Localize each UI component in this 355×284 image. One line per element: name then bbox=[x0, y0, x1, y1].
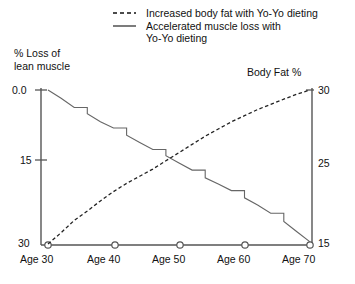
x-marker-age-50 bbox=[177, 242, 183, 248]
axis-lines bbox=[41, 88, 312, 245]
x-marker-age-60 bbox=[242, 242, 248, 248]
series-line-muscle-loss bbox=[48, 90, 310, 242]
plot-area bbox=[0, 0, 355, 284]
chart-figure: Increased body fat with Yo-Yo dieting Ac… bbox=[0, 0, 355, 284]
x-marker-age-70 bbox=[307, 242, 313, 248]
x-marker-age-40 bbox=[112, 242, 118, 248]
axis-ticks bbox=[35, 90, 314, 160]
